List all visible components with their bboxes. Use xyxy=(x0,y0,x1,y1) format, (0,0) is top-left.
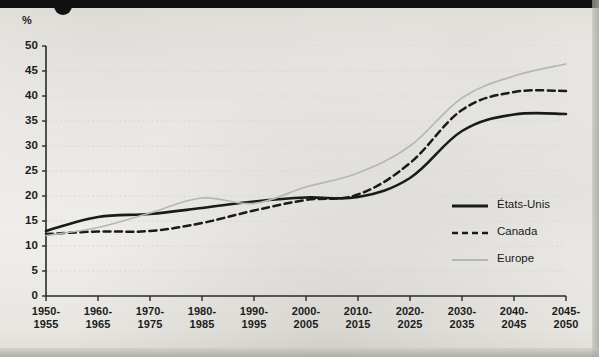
legend-label: Europe xyxy=(497,252,534,264)
x-label-line-top: 1990- xyxy=(228,305,280,318)
y-axis-tick-label: 45 xyxy=(8,64,38,76)
x-label-line-top: 2045- xyxy=(540,305,592,318)
y-axis-tick-label: 20 xyxy=(8,189,38,201)
x-axis-tick-label: 2030-2035 xyxy=(436,305,488,331)
x-axis-tick-label: 2010-2015 xyxy=(332,305,384,331)
x-axis-tick-label: 1980-1985 xyxy=(176,305,228,331)
x-label-line-bottom: 2025 xyxy=(384,318,436,331)
x-label-line-bottom: 1975 xyxy=(124,318,176,331)
x-label-line-bottom: 1965 xyxy=(72,318,124,331)
x-label-line-bottom: 1995 xyxy=(228,318,280,331)
x-label-line-top: 2040- xyxy=(488,305,540,318)
x-label-line-bottom: 2045 xyxy=(488,318,540,331)
x-axis-tick-label: 2020-2025 xyxy=(384,305,436,331)
x-axis-tick-label: 2040-2045 xyxy=(488,305,540,331)
x-label-line-top: 2010- xyxy=(332,305,384,318)
y-axis-unit-label: % xyxy=(22,14,32,26)
y-axis-tick-label: 15 xyxy=(8,214,38,226)
x-label-line-bottom: 2050 xyxy=(540,318,592,331)
x-label-line-bottom: 2015 xyxy=(332,318,384,331)
x-label-line-top: 1950- xyxy=(20,305,72,318)
gridlines-group xyxy=(46,46,566,271)
y-axis-tick-label: 35 xyxy=(8,114,38,126)
x-label-line-bottom: 2005 xyxy=(280,318,332,331)
x-label-line-top: 1960- xyxy=(72,305,124,318)
x-label-line-top: 2020- xyxy=(384,305,436,318)
series-line-canada xyxy=(46,90,566,234)
chart-figure: % 05101520253035404550 1950-19551960-196… xyxy=(0,0,599,357)
series-line--tats-unis xyxy=(46,113,566,231)
y-axis-tick-label: 25 xyxy=(8,164,38,176)
series-line-europe xyxy=(46,64,566,236)
y-axis-tick-label: 5 xyxy=(8,264,38,276)
x-label-line-top: 1980- xyxy=(176,305,228,318)
x-label-line-top: 2000- xyxy=(280,305,332,318)
data-series-group xyxy=(46,64,566,236)
x-axis-tick-label: 2045-2050 xyxy=(540,305,592,331)
y-axis-tick-label: 40 xyxy=(8,89,38,101)
x-axis-tick-label: 1990-1995 xyxy=(228,305,280,331)
y-axis-tick-label: 50 xyxy=(8,39,38,51)
x-axis-tick-label: 1970-1975 xyxy=(124,305,176,331)
legend-group xyxy=(452,206,488,260)
x-axis-tick-label: 2000-2005 xyxy=(280,305,332,331)
x-label-line-bottom: 2035 xyxy=(436,318,488,331)
line-chart-canvas xyxy=(0,0,599,357)
legend-label: Canada xyxy=(497,225,537,237)
x-axis-tick-label: 1950-1955 xyxy=(20,305,72,331)
x-label-line-top: 1970- xyxy=(124,305,176,318)
y-axis-tick-label: 0 xyxy=(8,289,38,301)
y-axis-tick-label: 10 xyxy=(8,239,38,251)
x-label-line-top: 2030- xyxy=(436,305,488,318)
y-axis-tick-label: 30 xyxy=(8,139,38,151)
legend-label: États-Unis xyxy=(497,198,550,210)
x-axis-tick-label: 1960-1965 xyxy=(72,305,124,331)
x-label-line-bottom: 1955 xyxy=(20,318,72,331)
x-label-line-bottom: 1985 xyxy=(176,318,228,331)
